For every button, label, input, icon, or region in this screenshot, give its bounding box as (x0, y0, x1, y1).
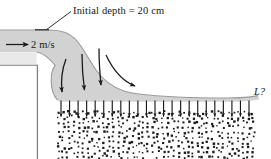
bed-dot (168, 113, 170, 115)
bed-dot (173, 155, 175, 157)
bed-dot (231, 155, 233, 157)
bed-dot (199, 136, 201, 138)
bed-dot (183, 135, 185, 137)
bed-dot (232, 125, 234, 127)
bed-dot (87, 152, 89, 154)
bed-dot (103, 152, 105, 154)
bed-dot (166, 146, 168, 148)
bed-dot (91, 156, 93, 158)
bed-dot (231, 142, 233, 144)
bed-dot (246, 122, 248, 124)
bed-dot (123, 140, 125, 142)
bed-dot (142, 127, 144, 129)
bed-dot (182, 121, 184, 123)
bed-dot (68, 130, 70, 132)
bed-dot (219, 122, 221, 124)
figure-canvas (0, 0, 271, 159)
bed-dot (202, 136, 203, 137)
bed-dot (248, 133, 250, 135)
bed-dot (82, 147, 84, 149)
bed-dot (108, 123, 110, 125)
bed-dot (96, 121, 98, 123)
bed-dot (118, 147, 120, 149)
bed-dot (172, 140, 174, 142)
bed-dot (93, 131, 95, 133)
bed-dot (218, 150, 220, 152)
bed-dot (223, 156, 225, 158)
bed-dot (102, 147, 104, 149)
bed-dot (153, 137, 155, 139)
bed-dot (237, 111, 239, 113)
porous-bed (56, 110, 257, 159)
bed-dot (70, 147, 72, 149)
bed-dot (187, 127, 189, 129)
bed-dot (251, 127, 253, 129)
bed-dot (197, 145, 199, 147)
bed-dot (233, 132, 235, 134)
bed-dot (222, 120, 224, 122)
bed-dot (98, 157, 100, 159)
bed-dot (178, 132, 180, 134)
bed-dot (192, 127, 194, 129)
bed-dot (128, 142, 130, 144)
bed-dot (99, 118, 100, 119)
bed-dot (242, 117, 244, 119)
bed-dot (96, 110, 98, 112)
bed-dot (167, 135, 169, 137)
bed-dot (86, 135, 88, 137)
bed-dot (191, 141, 193, 143)
bed-dot (168, 140, 170, 142)
bed-dot (77, 152, 79, 154)
bed-dot (58, 158, 60, 159)
bed-dot (198, 132, 200, 134)
bed-dot (57, 142, 59, 144)
bed-dot (127, 157, 128, 158)
bed-dot (213, 146, 215, 148)
bed-dot (58, 151, 60, 153)
bed-dot (122, 151, 124, 153)
bed-dot (192, 137, 193, 138)
bed-dot (220, 151, 222, 153)
bed-dot (254, 131, 256, 133)
bed-dot (175, 136, 177, 138)
bed-dot (167, 133, 169, 135)
bed-dot (117, 117, 119, 119)
bed-dot (193, 122, 195, 124)
bed-dot (126, 151, 128, 153)
bed-dot (221, 132, 223, 134)
bed-dot (73, 121, 75, 123)
bed-dot (138, 133, 140, 135)
bed-dot (155, 118, 157, 120)
bed-dot (251, 117, 253, 119)
bed-dot (126, 130, 128, 132)
bed-dot (238, 150, 240, 152)
bed-dot (207, 117, 208, 118)
bed-dot (132, 146, 133, 147)
bed-dot (243, 120, 245, 122)
bed-dot (113, 141, 115, 143)
bed-dot (167, 122, 169, 124)
bed-dot (123, 145, 125, 147)
bed-dot (216, 147, 218, 149)
bed-dot (248, 118, 250, 120)
length-query-label: L? (254, 86, 265, 97)
bed-dot (68, 137, 70, 139)
bed-dot (182, 117, 183, 118)
bed-dot (227, 117, 229, 119)
bed-dot (76, 156, 78, 158)
bed-dot (95, 131, 98, 134)
bed-dot (101, 113, 102, 114)
bed-dot (64, 147, 66, 149)
bed-dot (96, 142, 97, 143)
bed-dot (238, 132, 239, 133)
bed-dot (78, 127, 80, 129)
bed-dot (107, 150, 109, 152)
bed-dot (133, 152, 135, 154)
bed-dot (141, 136, 143, 138)
bed-dot (84, 127, 86, 129)
bed-dot (185, 137, 187, 139)
bed-dot (62, 137, 64, 139)
bed-dot (91, 117, 93, 119)
step-wall (0, 53, 37, 159)
bed-dot (151, 126, 153, 128)
